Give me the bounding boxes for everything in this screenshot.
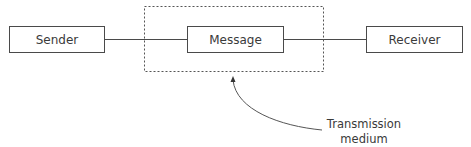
node-receiver-label: Receiver <box>389 33 441 47</box>
transmission-medium-label-line2: medium <box>324 132 404 147</box>
node-message-label: Message <box>209 33 262 47</box>
node-sender: Sender <box>9 26 105 53</box>
arrowhead-icon <box>231 76 236 82</box>
node-message: Message <box>187 26 284 53</box>
transmission-medium-label: Transmission medium <box>324 117 404 147</box>
node-sender-label: Sender <box>36 33 79 47</box>
pointer-arrow <box>233 80 322 130</box>
transmission-medium-label-line1: Transmission <box>324 117 404 132</box>
node-receiver: Receiver <box>366 26 463 53</box>
